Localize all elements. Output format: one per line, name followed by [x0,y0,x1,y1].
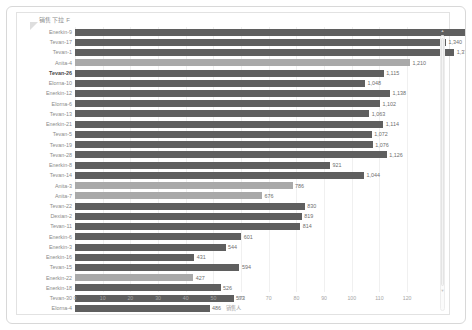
category-label[interactable]: Tevan-14 [17,170,75,180]
bar-row[interactable]: Tevan-11814 [17,221,449,231]
bar[interactable] [75,233,241,240]
x-axis-tick-label: 0 [74,295,77,301]
bar-row[interactable]: Enerkin-91,429 [17,27,449,37]
bar[interactable] [75,100,380,107]
category-label[interactable]: Dexian-2 [17,211,75,221]
bar-row[interactable]: Tevan-15594 [17,262,449,272]
bar-value-label: 1,126 [387,150,403,160]
bar-row[interactable]: Tevan-191,076 [17,140,449,150]
bar[interactable] [75,90,390,97]
category-label[interactable]: Enerkin-21 [17,119,75,129]
bar-row[interactable]: Tevan-141,044 [17,170,449,180]
category-label[interactable]: Tevan-26 [17,68,75,78]
category-label[interactable]: Tevan-17 [17,37,75,47]
x-axis: 销售人 0102030405060708090100110120 [17,292,449,314]
bar[interactable] [75,213,302,220]
bar-row[interactable]: Dexian-2819 [17,211,449,221]
bar[interactable] [75,110,369,117]
bar-value-label: 1,048 [365,78,381,88]
category-label[interactable]: Enerkin-8 [17,160,75,170]
bar[interactable] [75,192,262,199]
bar-row[interactable]: Enerkin-6601 [17,232,449,242]
bar-row[interactable]: Anita-7676 [17,191,449,201]
bar-row[interactable]: Anita-3786 [17,181,449,191]
bar[interactable] [75,121,383,128]
bar-row[interactable]: Enerkin-121,138 [17,88,449,98]
scrollbar-thumb[interactable] [441,38,444,286]
category-label[interactable]: Tevan-22 [17,201,75,211]
bar-value-label: 921 [330,160,342,170]
scroll-down-icon[interactable]: ▼ [440,287,445,294]
category-label[interactable]: Enerkin-9 [17,27,75,37]
bar-row[interactable]: Enerkin-16431 [17,252,449,262]
category-label[interactable]: Tevan-11 [17,221,75,231]
category-label[interactable]: Tevan-28 [17,150,75,160]
x-axis-tick-label: 70 [266,295,272,301]
plot-area: 销售下拉 F Enerkin-91,429Tevan-171,340Tevan-… [16,12,450,315]
x-axis-tick-label: 110 [375,295,383,301]
bar[interactable] [75,151,387,158]
bar-row[interactable]: Tevan-11,370 [17,47,449,57]
bar-row[interactable]: Enerkin-8921 [17,160,449,170]
bar[interactable] [75,29,466,36]
bar-row[interactable]: Enerkin-211,114 [17,119,449,129]
bar-row[interactable]: Tevan-22830 [17,201,449,211]
category-label[interactable]: Tevan-13 [17,109,75,119]
bar[interactable] [75,264,239,271]
category-label[interactable]: Elorna-6 [17,99,75,109]
bar[interactable] [75,274,193,281]
bar-row[interactable]: Tevan-171,340 [17,37,449,47]
bar-row[interactable]: Elorna-101,048 [17,78,449,88]
category-label[interactable]: Tevan-15 [17,262,75,272]
bar-row[interactable]: Enerkin-22427 [17,273,449,283]
x-axis-tick-label: 10 [100,295,106,301]
bar-value-label: 819 [302,211,314,221]
bar-row[interactable]: Tevan-51,072 [17,129,449,139]
x-axis-tick-label: 80 [294,295,300,301]
bar[interactable] [75,141,373,148]
bar[interactable] [75,70,384,77]
bar-value-label: 1,076 [373,140,389,150]
bar[interactable] [75,59,410,66]
category-label[interactable]: Anita-7 [17,191,75,201]
bar[interactable] [75,182,293,189]
bar[interactable] [75,172,364,179]
bar[interactable] [75,39,446,46]
bar[interactable] [75,131,372,138]
bar[interactable] [75,223,300,230]
category-label[interactable]: Anita-4 [17,58,75,68]
category-label[interactable]: Enerkin-3 [17,242,75,252]
bar-value-label: 1,114 [383,119,399,129]
category-label[interactable]: Enerkin-16 [17,252,75,262]
bar-value-label: 431 [194,252,206,262]
bar-row[interactable]: Anita-41,210 [17,58,449,68]
category-label[interactable]: Anita-3 [17,181,75,191]
bar[interactable] [75,162,330,169]
bar-value-label: 1,072 [372,129,388,139]
category-label[interactable]: Enerkin-12 [17,88,75,98]
bar[interactable] [75,254,194,261]
bar-row[interactable]: Tevan-131,063 [17,109,449,119]
bar[interactable] [75,80,365,87]
category-label[interactable]: Tevan-1 [17,47,75,57]
x-axis-tick-label: 40 [183,295,189,301]
bar-row[interactable]: Elorna-61,102 [17,99,449,109]
bar-row[interactable]: Tevan-261,115 [17,68,449,78]
bar-value-label: 830 [305,201,317,211]
category-label[interactable]: Enerkin-6 [17,232,75,242]
bar[interactable] [75,49,454,56]
bar[interactable] [75,203,305,210]
category-label[interactable]: Tevan-19 [17,140,75,150]
scroll-up-icon[interactable]: ▲ [440,27,445,34]
bar[interactable] [75,244,226,251]
bar-value-label: 814 [300,221,312,231]
vertical-scrollbar[interactable] [440,35,445,311]
bar-row[interactable]: Enerkin-3544 [17,242,449,252]
category-label[interactable]: Enerkin-22 [17,273,75,283]
bar-value-label: 1,210 [410,58,426,68]
bar-value-label: 1,063 [369,109,385,119]
bar-row[interactable]: Tevan-281,126 [17,150,449,160]
bar[interactable] [75,284,221,291]
category-label[interactable]: Tevan-5 [17,129,75,139]
category-label[interactable]: Elorna-10 [17,78,75,88]
